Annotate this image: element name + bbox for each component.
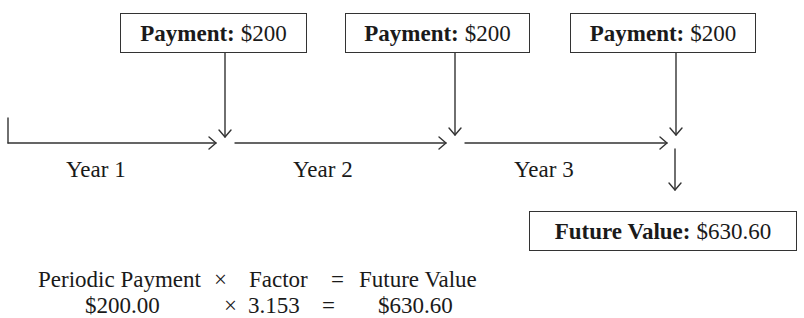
future-value-amount: $630.60 — [696, 220, 771, 243]
year-3-label: Year 3 — [514, 158, 574, 181]
payment-amount: $200 — [690, 22, 736, 45]
formula-value-factor: 3.153 — [248, 294, 300, 317]
formula-value-future-value: $630.60 — [378, 294, 453, 317]
payment-label: Payment: — [140, 22, 235, 45]
formula-term-periodic-payment: Periodic Payment — [38, 268, 201, 291]
formula-multiply-sign: × — [214, 268, 227, 291]
payment-label: Payment: — [364, 22, 459, 45]
payment-box-3: Payment: $200 — [570, 13, 756, 53]
formula-equals-sign: = — [322, 294, 335, 317]
formula-term-factor: Factor — [249, 268, 308, 291]
payment-amount: $200 — [465, 22, 511, 45]
year-1-label: Year 1 — [66, 158, 126, 181]
formula-multiply-sign: × — [224, 294, 237, 317]
formula-equals-sign: = — [331, 268, 344, 291]
formula-term-future-value: Future Value — [359, 268, 477, 291]
payment-amount: $200 — [241, 22, 287, 45]
future-value-label: Future Value: — [555, 220, 691, 243]
year-2-label: Year 2 — [293, 158, 353, 181]
payment-label: Payment: — [590, 22, 685, 45]
payment-box-2: Payment: $200 — [345, 13, 530, 53]
formula-value-payment: $200.00 — [85, 294, 160, 317]
future-value-box: Future Value: $630.60 — [529, 211, 797, 251]
payment-box-1: Payment: $200 — [120, 13, 307, 53]
